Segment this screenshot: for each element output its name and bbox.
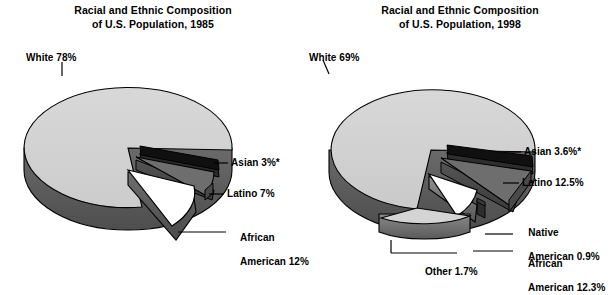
label-african-american-1985-line2: American 12% [240,256,309,267]
label-latino-1998: Latino 12.5% [522,177,584,189]
chart-1985: Racial and Ethnic Composition of U.S. Po… [0,0,306,290]
label-white-1998: White 69% [309,52,359,64]
label-white-1985: White 78% [26,52,76,64]
label-african-american-1998-line1: African [528,258,563,269]
label-african-american-1985-line1: African [240,232,275,243]
pie-slice-native-american-1998 [477,198,485,218]
label-african-american-1998: African American 12.3% [517,246,605,295]
label-native-american-1998-line1: Native [528,227,558,238]
label-asian-1998: Asian 3.6%* [524,146,581,158]
chart-1998: Racial and Ethnic Composition of U.S. Po… [307,0,613,290]
label-latino-1985: Latino 7% [227,188,275,200]
label-other-1998: Other 1.7% [425,266,478,278]
label-african-american-1985: African American 12% [229,220,309,280]
label-asian-1985: Asian 3%* [231,157,280,169]
label-african-american-1998-line2: American 12.3% [528,282,605,293]
